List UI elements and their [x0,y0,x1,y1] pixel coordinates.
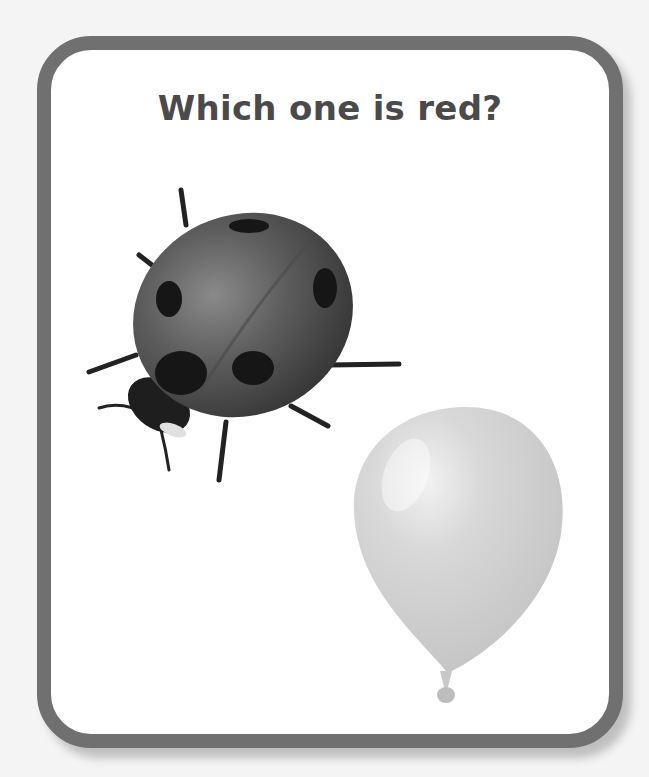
question-card: Which one is red? [37,36,623,748]
choice-balloon[interactable] [336,395,576,725]
balloon-icon [336,395,576,725]
question-title: Which one is red? [51,88,609,128]
